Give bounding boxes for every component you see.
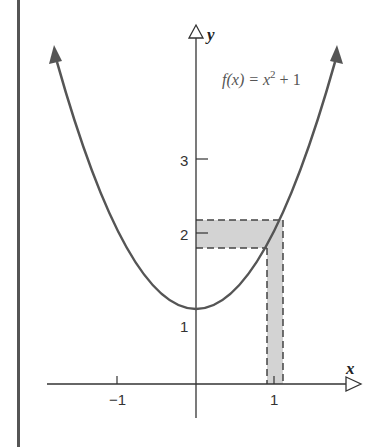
- shaded-y-interval: [196, 220, 283, 248]
- x-axis: [47, 376, 361, 391]
- y-axis-arrow-icon: [189, 25, 203, 38]
- x-axis-arrow-icon: [346, 377, 361, 391]
- function-graph: −1 1 1 2 3 x y f(x) = x2 + 1: [0, 0, 381, 447]
- y-tick-label-3: 3: [180, 152, 188, 169]
- y-tick-label-2: 2: [180, 226, 188, 243]
- y-axis-label: y: [205, 25, 215, 44]
- x-tick-label-1: 1: [270, 391, 278, 408]
- y-tick-label-1: 1: [180, 318, 188, 335]
- function-label: f(x) = x2 + 1: [222, 68, 301, 89]
- shaded-x-interval: [267, 248, 283, 384]
- curve-left-arrow-icon: [49, 45, 62, 64]
- x-tick-label-neg1: −1: [109, 391, 126, 408]
- x-axis-label: x: [345, 359, 355, 378]
- curve-right-arrow-icon: [330, 45, 343, 64]
